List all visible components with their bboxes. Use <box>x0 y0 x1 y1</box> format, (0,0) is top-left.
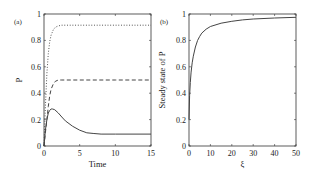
x-axis-label: ξ <box>241 159 245 169</box>
y-tick-label: 0.8 <box>176 36 186 45</box>
y-tick-label: 0.4 <box>31 89 41 98</box>
y-tick-label: 0.8 <box>31 36 41 45</box>
x-axis-label: Time <box>89 159 107 169</box>
y-tick-label: 0.4 <box>176 89 186 98</box>
axes-frame <box>189 14 296 146</box>
y-tick-label: 0 <box>37 142 41 151</box>
y-tick-label: 1 <box>182 10 186 19</box>
y-tick-label: 0.6 <box>31 63 41 72</box>
series-line-steady-state <box>189 17 296 119</box>
x-tick-label: 0 <box>187 149 191 158</box>
series-line-solid <box>44 109 151 146</box>
y-tick-label: 1 <box>37 10 41 19</box>
x-tick-label: 0 <box>42 149 46 158</box>
x-tick-label: 20 <box>228 149 236 158</box>
y-tick-label: 0.2 <box>176 116 186 125</box>
x-tick-label: 10 <box>206 149 214 158</box>
x-tick-label: 5 <box>78 149 82 158</box>
x-tick-label: 15 <box>147 149 155 158</box>
figure: 05101500.20.40.60.81(a)TimeP010203040500… <box>0 0 314 179</box>
series-line-dotted <box>44 25 151 146</box>
panel-label: (a) <box>14 18 22 26</box>
series-line-dashed <box>44 80 151 146</box>
y-tick-label: 0.6 <box>176 63 186 72</box>
y-axis-label: P <box>14 77 24 82</box>
plot-panel-a: 05101500.20.40.60.81(a)TimeP <box>14 10 155 169</box>
y-tick-label: 0.2 <box>31 116 41 125</box>
plot-panel-b: 0102030405000.20.40.60.81(b)ξSteady stat… <box>157 10 300 169</box>
x-tick-label: 50 <box>292 149 300 158</box>
y-axis-label: Steady state of P <box>157 51 167 108</box>
panel-label: (b) <box>160 18 169 26</box>
x-tick-label: 10 <box>111 149 119 158</box>
y-tick-label: 0 <box>182 142 186 151</box>
x-tick-label: 40 <box>271 149 279 158</box>
x-tick-label: 30 <box>249 149 257 158</box>
